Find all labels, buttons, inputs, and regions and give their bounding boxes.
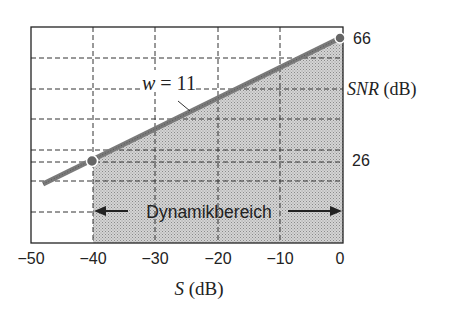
marker-point-minus40 [87, 156, 98, 167]
y-axis-label: SNR (dB) [347, 79, 417, 100]
x-tick-label: 0 [336, 250, 345, 267]
snr-dynamic-range-chart: w = 11 Dynamikbereich 66 SNR (dB) 26 −50… [0, 0, 453, 315]
w-label-leader [178, 101, 190, 111]
y-value-26: 26 [352, 152, 370, 169]
x-tick-label: −40 [79, 250, 106, 267]
w-label: w = 11 [142, 72, 196, 94]
y-value-66: 66 [353, 30, 371, 47]
marker-point-0 [335, 33, 345, 43]
x-tick-label: −30 [141, 250, 168, 267]
x-tick-label: −10 [266, 250, 293, 267]
dynamic-range-label: Dynamikbereich [146, 202, 271, 222]
x-axis-label: S (dB) [174, 278, 223, 300]
x-tick-label: −50 [17, 250, 44, 267]
x-tick-labels: −50 −40 −30 −20 −10 0 [17, 250, 344, 267]
x-tick-label: −20 [204, 250, 231, 267]
